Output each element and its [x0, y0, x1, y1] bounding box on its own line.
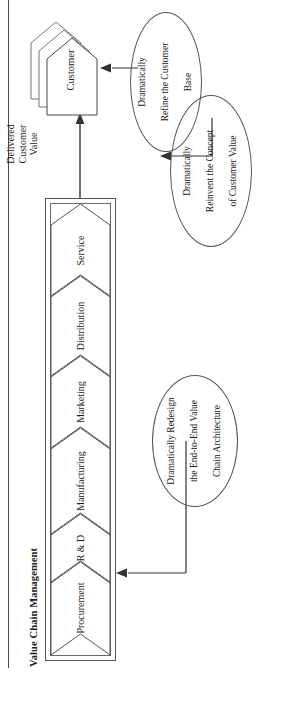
callout-line-1: Dramatically Redesign	[166, 390, 178, 491]
callout-line-2: Reinvent the Concept	[205, 123, 217, 219]
callout-line-2: Refine the Customer	[160, 36, 172, 129]
value-chain-stage-service[interactable]: Service	[50, 203, 111, 298]
value-chain-stages: Procurement R & D Manufacturing	[50, 203, 111, 656]
delivered-customer-value-arrow	[36, 112, 90, 198]
callout-line-3: of Customer Value	[228, 123, 240, 219]
dcv-line-2: Customer	[17, 101, 29, 187]
callout-reinvent-customer-value[interactable]: Dramatically Reinvent the Concept of Cus…	[170, 95, 252, 247]
callout-line-3: Chain Architecture	[212, 390, 224, 491]
callout-line-1: Dramatically	[137, 36, 149, 129]
rotated-figure-wrapper: Value Chain Management Procurement	[0, 0, 282, 702]
dcv-line-1: Delivered	[5, 101, 17, 187]
customer-label: Customer	[44, 33, 96, 107]
value-chain-figure: Value Chain Management Procurement	[0, 0, 282, 702]
callout-line-1: Dramatically	[182, 123, 194, 219]
diagram-page: Value Chain Management Procurement	[0, 0, 282, 702]
customer-stack[interactable]: Customer	[30, 15, 110, 117]
section-title: Value Chain Management	[28, 548, 39, 667]
callout-line-2: the End-to-End Value	[189, 390, 201, 491]
callout-redesign-value-chain[interactable]: Dramatically Redesign the End-to-End Val…	[152, 375, 238, 507]
